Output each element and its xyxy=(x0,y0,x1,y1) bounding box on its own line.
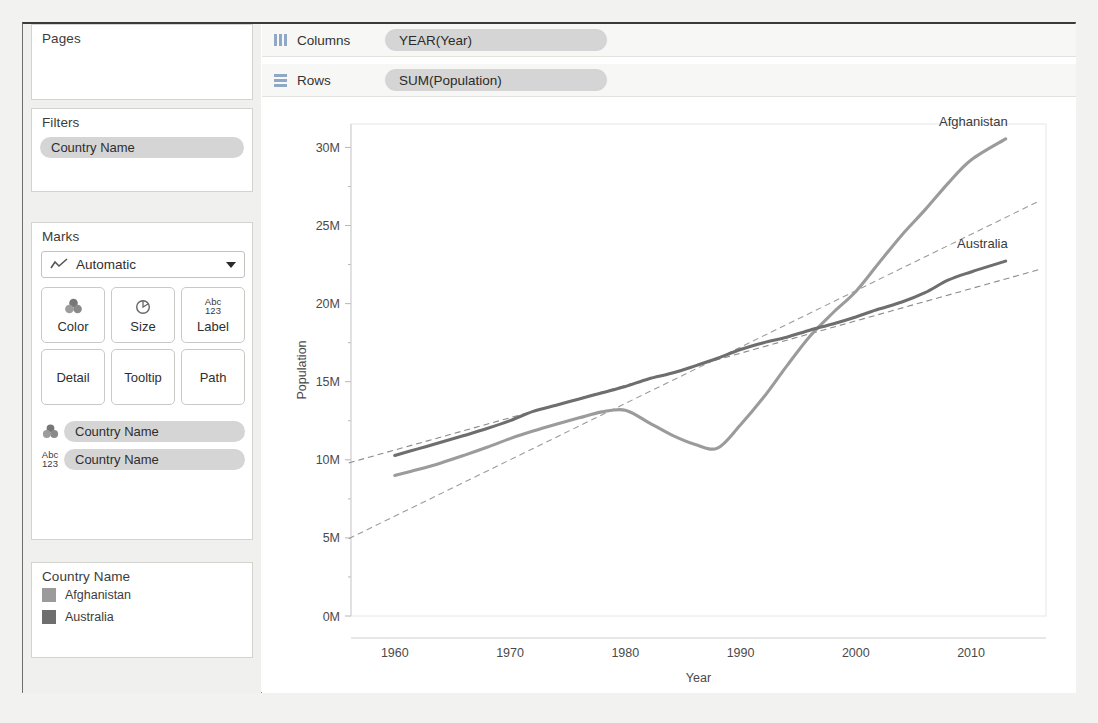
columns-icon xyxy=(273,33,289,47)
x-tick-label: 1990 xyxy=(727,646,755,660)
abc-123-icon: Abc 123 xyxy=(205,296,221,316)
columns-shelf-label: Columns xyxy=(297,33,385,48)
legend-item-label: Australia xyxy=(65,610,114,624)
columns-shelf-pill[interactable]: YEAR(Year) xyxy=(385,29,607,51)
label-button[interactable]: Abc 123 Label xyxy=(181,287,245,343)
worksheet-main: Columns YEAR(Year) Rows SUM(Population) … xyxy=(262,24,1076,693)
marks-encoding-label[interactable]: Abc 123 Country Name xyxy=(32,447,254,471)
rows-shelf[interactable]: Rows SUM(Population) xyxy=(262,64,1076,97)
size-button[interactable]: Size xyxy=(111,287,175,343)
y-tick-label: 30M xyxy=(316,141,340,155)
legend-item-australia[interactable]: Australia xyxy=(32,606,252,628)
123-text: 123 xyxy=(205,305,221,316)
tooltip-button-label: Tooltip xyxy=(124,370,162,385)
y-tick-label: 10M xyxy=(316,453,340,467)
marks-card-title: Marks xyxy=(32,223,252,244)
path-button-label: Path xyxy=(200,370,227,385)
filters-card[interactable]: Filters Country Name xyxy=(31,108,253,192)
rows-icon xyxy=(273,73,289,87)
rows-shelf-label: Rows xyxy=(297,73,385,88)
detail-button[interactable]: Detail xyxy=(41,349,105,405)
y-tick-label: 15M xyxy=(316,375,340,389)
color-legend-card[interactable]: Country Name Afghanistan Australia xyxy=(31,562,253,658)
marks-card[interactable]: Marks Automatic xyxy=(31,222,253,540)
123-text: 123 xyxy=(42,458,58,469)
marks-type-dropdown[interactable]: Automatic xyxy=(41,251,245,278)
y-tick-label: 5M xyxy=(323,531,340,545)
detail-button-label: Detail xyxy=(56,370,89,385)
plot-background xyxy=(351,124,1046,616)
chart-viz[interactable]: 0M5M10M15M20M25M30M196019701980199020002… xyxy=(284,106,1076,693)
y-tick-label: 0M xyxy=(323,610,340,624)
chevron-down-icon[interactable] xyxy=(226,262,236,268)
pages-card[interactable]: Pages xyxy=(31,24,253,100)
columns-shelf[interactable]: Columns YEAR(Year) xyxy=(262,24,1076,57)
x-tick-label: 1960 xyxy=(381,646,409,660)
mark-label-australia: Australia xyxy=(957,236,1008,251)
x-tick-label: 1970 xyxy=(496,646,524,660)
legend-swatch xyxy=(42,610,56,624)
size-circle-icon xyxy=(134,296,152,316)
abc-123-icon: Abc 123 xyxy=(39,450,61,469)
filters-card-title: Filters xyxy=(32,109,252,130)
color-palette-icon xyxy=(64,296,83,316)
tooltip-button[interactable]: Tooltip xyxy=(111,349,175,405)
marks-encoding-label-pill[interactable]: Country Name xyxy=(64,449,245,470)
y-axis-title: Population xyxy=(295,340,309,399)
line-chart-icon xyxy=(50,258,68,271)
rows-shelf-pill[interactable]: SUM(Population) xyxy=(385,69,607,91)
marks-button-row-1: Color Size xyxy=(41,287,245,343)
color-button[interactable]: Color xyxy=(41,287,105,343)
path-button[interactable]: Path xyxy=(181,349,245,405)
x-axis-title: Year xyxy=(686,671,711,685)
legend-swatch xyxy=(42,588,56,602)
color-palette-icon xyxy=(39,424,61,439)
pages-card-title: Pages xyxy=(32,25,252,46)
x-tick-label: 2010 xyxy=(957,646,985,660)
line-chart[interactable]: 0M5M10M15M20M25M30M196019701980199020002… xyxy=(284,106,1076,693)
marks-encoding-color[interactable]: Country Name xyxy=(32,419,254,443)
marks-encoding-color-pill[interactable]: Country Name xyxy=(64,421,245,442)
mark-label-afghanistan: Afghanistan xyxy=(939,114,1008,129)
marks-type-label: Automatic xyxy=(76,257,226,272)
size-button-label: Size xyxy=(130,319,155,334)
color-legend-title: Country Name xyxy=(32,563,252,584)
app-window: Pages Filters Country Name Marks Automat… xyxy=(0,0,1098,723)
y-tick-label: 20M xyxy=(316,297,340,311)
x-tick-label: 2000 xyxy=(842,646,870,660)
worksheet-content: Pages Filters Country Name Marks Automat… xyxy=(22,22,1076,693)
filter-pill-country-name[interactable]: Country Name xyxy=(40,137,244,158)
marks-button-row-2: Detail Tooltip Path xyxy=(41,349,245,405)
legend-item-afghanistan[interactable]: Afghanistan xyxy=(32,584,252,606)
y-tick-label: 25M xyxy=(316,219,340,233)
x-tick-label: 1980 xyxy=(611,646,639,660)
marks-encodings: Country Name Abc 123 Country Name xyxy=(32,415,254,471)
color-button-label: Color xyxy=(57,319,88,334)
label-button-label: Label xyxy=(197,319,229,334)
legend-item-label: Afghanistan xyxy=(65,588,131,602)
worksheet-sidebar: Pages Filters Country Name Marks Automat… xyxy=(23,24,261,693)
